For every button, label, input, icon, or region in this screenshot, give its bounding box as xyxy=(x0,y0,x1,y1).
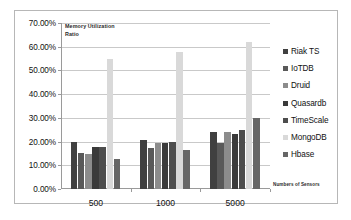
bar[interactable] xyxy=(148,148,155,189)
bar[interactable] xyxy=(92,147,99,189)
bar-group xyxy=(61,23,131,189)
bar[interactable] xyxy=(169,142,176,189)
bar[interactable] xyxy=(210,132,217,189)
bar[interactable] xyxy=(140,140,147,189)
legend-swatch-icon xyxy=(283,83,288,88)
legend-item[interactable]: MongoDB xyxy=(283,129,351,146)
legend-swatch-icon xyxy=(283,66,288,71)
bar[interactable] xyxy=(114,159,121,189)
bar[interactable] xyxy=(217,143,224,189)
y-axis-tick-label: 70.00% xyxy=(29,19,56,28)
legend-item[interactable]: Druid xyxy=(283,77,351,94)
bar[interactable] xyxy=(85,154,92,189)
bar[interactable] xyxy=(253,118,260,189)
bar[interactable] xyxy=(99,147,106,189)
legend-swatch-icon xyxy=(283,49,288,54)
y-axis-tick-label: 30.00% xyxy=(29,113,56,122)
legend-item-label: Druid xyxy=(291,81,310,90)
legend-item-label: TimeScale xyxy=(291,116,328,125)
y-axis-tick-label: 20.00% xyxy=(29,137,56,146)
bar[interactable] xyxy=(107,59,114,189)
legend-item[interactable]: IoTDB xyxy=(283,60,351,77)
x-axis-tick-label: 5000 xyxy=(226,198,245,208)
x-tick-mark xyxy=(200,189,201,192)
bar-group xyxy=(131,23,201,189)
bar-group xyxy=(200,23,270,189)
chart-legend: Riak TSIoTDBDruidQuasardbTimeScaleMongoD… xyxy=(283,43,351,163)
x-axis-tick-label: 500 xyxy=(89,198,103,208)
x-tick-mark xyxy=(131,189,132,192)
plot-area: 0.00%10.00%20.00%30.00%40.00%50.00%60.00… xyxy=(61,23,270,189)
y-axis-tick-label: 40.00% xyxy=(29,90,56,99)
legend-item-label: Hbase xyxy=(291,150,314,159)
legend-swatch-icon xyxy=(283,101,288,106)
y-axis-tick-label: 10.00% xyxy=(29,161,56,170)
x-axis-tick-label: 1000 xyxy=(156,198,175,208)
bar[interactable] xyxy=(232,134,239,189)
x-tick-mark xyxy=(270,189,271,192)
x-axis-title: Numbers of Sensors xyxy=(273,182,320,187)
y-axis-tick-label: 50.00% xyxy=(29,66,56,75)
bar[interactable] xyxy=(224,132,231,189)
legend-swatch-icon xyxy=(283,118,288,123)
legend-item[interactable]: TimeScale xyxy=(283,112,351,129)
legend-item-label: MongoDB xyxy=(291,133,327,142)
bar[interactable] xyxy=(183,150,190,189)
legend-item[interactable]: Hbase xyxy=(283,146,351,163)
legend-item-label: IoTDB xyxy=(291,64,314,73)
y-axis-tick-label: 0.00% xyxy=(33,185,56,194)
legend-item-label: Quasardb xyxy=(291,99,326,108)
bar[interactable] xyxy=(162,143,169,189)
bar[interactable] xyxy=(176,52,183,189)
chart-container: Memory Utilization Ratio 0.00%10.00%20.0… xyxy=(14,10,338,204)
plot-inner: 0.00%10.00%20.00%30.00%40.00%50.00%60.00… xyxy=(61,23,270,189)
y-axis-tick-label: 60.00% xyxy=(29,42,56,51)
bar[interactable] xyxy=(246,42,253,189)
legend-item[interactable]: Riak TS xyxy=(283,43,351,60)
legend-item[interactable]: Quasardb xyxy=(283,95,351,112)
y-tick-mark xyxy=(58,189,61,190)
bar[interactable] xyxy=(239,130,246,189)
bar[interactable] xyxy=(78,153,85,189)
legend-item-label: Riak TS xyxy=(291,47,319,56)
bar[interactable] xyxy=(155,143,162,189)
legend-swatch-icon xyxy=(283,135,288,140)
legend-swatch-icon xyxy=(283,152,288,157)
bar[interactable] xyxy=(71,142,78,189)
